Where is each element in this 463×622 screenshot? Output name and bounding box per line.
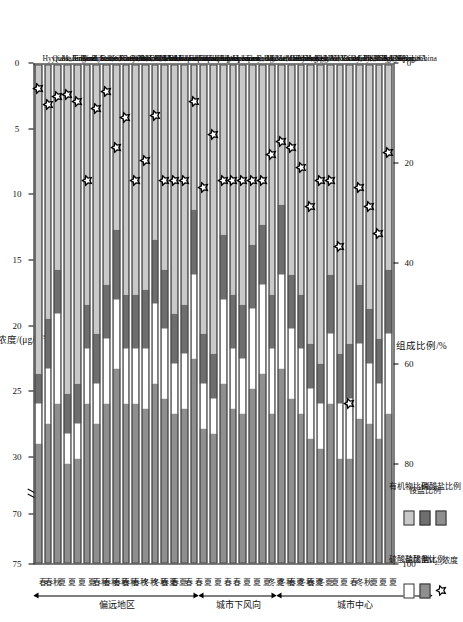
bar-segment-铵盐比例	[268, 294, 276, 349]
stacked-bar	[229, 64, 237, 563]
season-label: 夏	[57, 578, 65, 586]
bar-segment-硫酸盐比例	[219, 383, 227, 563]
bar-row	[111, 64, 121, 563]
pm25-marker	[363, 200, 375, 212]
bar-segment-有机物比例	[141, 64, 149, 289]
pm25-marker	[343, 397, 355, 409]
season-label: 春	[232, 578, 240, 586]
bar-segment-有机物比例	[122, 64, 130, 294]
bar-segment-硝酸盐比例	[112, 299, 120, 369]
bar-row	[121, 64, 131, 563]
season-label: 夏	[330, 578, 338, 586]
bar-segment-铵盐比例	[384, 269, 392, 334]
bar-segment-铵盐比例	[287, 274, 295, 329]
category-label: Beijing, China	[392, 54, 436, 62]
legend-column-1: 硫酸盐比例 硝酸盐比例 PM2.5浓度	[402, 539, 447, 598]
bar-segment-硫酸盐比例	[229, 408, 237, 563]
ticklabel-bottom-20: 20	[396, 159, 422, 168]
bar-segment-硫酸盐比例	[151, 383, 159, 563]
ticklabel-bottom-40: 40	[396, 259, 422, 268]
bar-segment-硫酸盐比例	[297, 413, 305, 563]
bar-segment-硫酸盐比例	[102, 403, 110, 563]
bar-segment-硫酸盐比例	[209, 433, 217, 563]
bar-segment-硫酸盐比例	[277, 368, 285, 563]
bar-segment-硫酸盐比例	[53, 403, 61, 563]
bar-segment-硝酸盐比例	[73, 423, 81, 458]
stacked-bar	[355, 64, 363, 563]
bar-segment-硝酸盐比例	[151, 304, 159, 384]
ticklabel-top-10: 10	[4, 190, 30, 199]
legend-label-nitrate2: 硝酸盐比例	[421, 482, 461, 491]
stacked-bar	[34, 64, 42, 563]
bar-segment-有机物比例	[258, 64, 266, 224]
bar-segment-硝酸盐比例	[326, 333, 334, 403]
bar-segment-铵盐比例	[316, 363, 324, 403]
bar-segment-铵盐比例	[238, 304, 246, 359]
stacked-bar	[336, 64, 344, 563]
season-label: 夏	[388, 578, 396, 586]
bar-row	[72, 64, 82, 563]
bar-segment-硫酸盐比例	[326, 403, 334, 563]
stacked-bar	[268, 64, 276, 563]
bar-segment-硫酸盐比例	[199, 428, 207, 563]
bar-segment-铵盐比例	[365, 309, 373, 364]
stacked-bar	[375, 64, 383, 563]
season-label: 夏	[213, 578, 221, 586]
ticklabel-bottom-60: 60	[396, 359, 422, 368]
ticklabel-top-30: 30	[4, 452, 30, 461]
bar-row	[296, 64, 306, 563]
legend-label-pm25: PM2.5浓度	[423, 555, 458, 568]
ticklabel-top-5: 5	[4, 124, 30, 133]
bar-segment-硫酸盐比例	[287, 398, 295, 563]
bar-segment-硝酸盐比例	[258, 284, 266, 374]
stacked-bar	[238, 64, 246, 563]
stacked-bar	[141, 64, 149, 563]
pm25-marker	[110, 141, 122, 153]
season-label: 夏	[339, 578, 347, 586]
legend-swatch-ammonium	[419, 510, 430, 525]
bar-segment-铵盐比例	[258, 224, 266, 284]
legend-swatch-organics	[403, 510, 414, 525]
pm25-marker	[149, 109, 161, 121]
bar-segment-硫酸盐比例	[190, 358, 198, 563]
pm25-marker	[90, 102, 102, 114]
bar-segment-硫酸盐比例	[160, 398, 168, 563]
bar-segment-铵盐比例	[345, 343, 353, 398]
bar-segment-硝酸盐比例	[229, 348, 237, 408]
bar-row	[286, 64, 296, 563]
bar-segment-有机物比例	[219, 64, 227, 234]
bar-segment-硫酸盐比例	[180, 408, 188, 563]
bar-segment-硝酸盐比例	[131, 348, 139, 403]
bar-segment-有机物比例	[199, 64, 207, 333]
bar-segment-有机物比例	[277, 64, 285, 204]
bar-row	[82, 64, 92, 563]
bar-segment-铵盐比例	[141, 289, 149, 349]
bar-segment-铵盐比例	[53, 269, 61, 314]
bar-segment-硝酸盐比例	[219, 299, 227, 384]
bar-segment-硝酸盐比例	[34, 403, 42, 443]
pm25-marker	[207, 128, 219, 140]
bar-segment-硫酸盐比例	[248, 388, 256, 563]
bar-segment-铵盐比例	[92, 333, 100, 383]
bar-segment-硫酸盐比例	[170, 413, 178, 563]
bar-row	[344, 64, 354, 563]
stacked-bar	[131, 64, 139, 563]
bar-segment-硫酸盐比例	[122, 403, 130, 563]
bar-segment-有机物比例	[34, 64, 42, 373]
ticklabel-top-15: 15	[4, 255, 30, 264]
stacked-bar	[365, 64, 373, 563]
bar-segment-铵盐比例	[131, 294, 139, 349]
rotated-canvas: 7570302520151050 100806040200 PM2.5浓度/(μ…	[0, 0, 463, 622]
group-bracket-line	[34, 595, 197, 596]
bar-segment-硝酸盐比例	[316, 403, 324, 448]
bar-segment-硝酸盐比例	[190, 274, 198, 359]
bar-row	[374, 64, 384, 563]
group-bracket-line	[199, 595, 275, 596]
bar-segment-硝酸盐比例	[248, 308, 256, 388]
legend-item-ammonium: 铵盐比例	[418, 466, 431, 525]
bar-row	[91, 64, 101, 563]
bar-segment-铵盐比例	[306, 343, 314, 388]
stacked-bar	[190, 64, 198, 563]
bar-segment-铵盐比例	[336, 353, 344, 403]
ticklabel-top-75: 75	[4, 560, 30, 569]
